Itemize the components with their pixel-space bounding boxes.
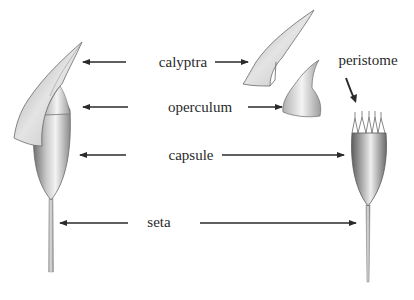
right-seta: [366, 205, 370, 282]
label-operculum: operculum: [168, 100, 232, 115]
right-capsule: [352, 133, 387, 206]
peristome-teeth: [352, 111, 385, 133]
label-capsule: capsule: [169, 148, 214, 163]
left-seta: [49, 198, 54, 272]
label-calyptra: calyptra: [159, 55, 207, 70]
left-sporophyte: [14, 42, 82, 272]
moss-sporophyte-diagram: calyptra operculum capsule seta peristom…: [0, 0, 414, 300]
label-peristome: peristome: [338, 53, 397, 68]
right-sporophyte: [346, 78, 386, 282]
label-seta: seta: [147, 215, 170, 230]
peristome-pointer-arrow: [346, 78, 354, 98]
detached-operculum: [283, 60, 321, 117]
